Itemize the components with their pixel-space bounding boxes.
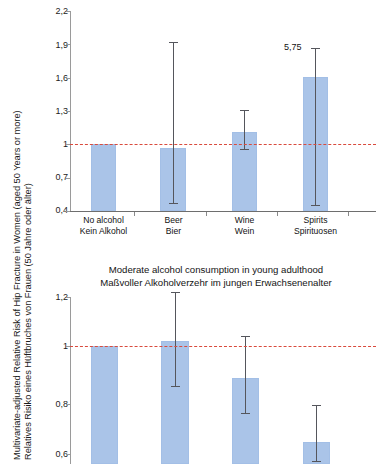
error-bar-cap-bottom-3-upper [241, 336, 250, 337]
y-axis-label-german: Relatives Risiko eines Hüftbruches von F… [23, 0, 33, 460]
y-axis-line-top [70, 11, 71, 211]
y-tick-label-0-4: 0,4 [32, 205, 68, 215]
bar-bottom-1[interactable] [91, 346, 118, 464]
error-bar-cap-wine-lower [240, 149, 249, 150]
annotation-spirits-upper-ci: 5,75 [284, 42, 302, 52]
y-axis-caption-block: Multivariate-adjusted Relative Risk of H… [0, 0, 30, 464]
error-bar-cap-spirits-upper [311, 48, 320, 49]
error-bar-bottom-3 [245, 336, 246, 413]
y-tick-label-bottom-1: 1 [32, 341, 68, 351]
x-category-spirits: Spirits Spirituosen [273, 215, 358, 236]
y-tick-2-2 [66, 11, 70, 12]
error-bar-bottom-2 [175, 292, 176, 386]
error-bar-cap-beer-upper [169, 42, 178, 43]
chart-hip-fracture-by-beverage: 2,2 1,9 1,6 1,3 1 0,7 0,4 [34, 0, 376, 240]
reference-line-rr-1-bottom [70, 346, 376, 347]
plot-area-top: 2,2 1,9 1,6 1,3 1 0,7 0,4 [34, 0, 376, 240]
error-bar-cap-bottom-4-upper [312, 405, 321, 406]
y-tick-1-6 [66, 78, 70, 79]
y-tick-1-9 [66, 44, 70, 45]
error-bar-bottom-4 [316, 405, 317, 461]
plot-area-bottom: 1,2 1 0,8 0,6 [34, 258, 376, 464]
chart-moderate-consumption-young-adulthood: Moderate alcohol consumption in young ad… [34, 258, 376, 464]
y-tick-label-0-7: 0,7 [32, 172, 68, 182]
y-tick-label-bottom-1-2: 1,2 [32, 292, 68, 302]
error-bar-cap-bottom-4-lower [312, 461, 321, 462]
y-axis-line-bottom [70, 297, 71, 464]
bar-no-alcohol[interactable] [91, 144, 116, 211]
y-tick-label-1-6: 1,6 [32, 73, 68, 83]
y-tick-label-1-3: 1,3 [32, 106, 68, 116]
error-bar-cap-beer-lower [169, 203, 178, 204]
x-axis-line-top [70, 211, 376, 212]
x-category-spirits-de: Spirituosen [273, 226, 358, 237]
y-tick-bottom-1-2 [66, 297, 70, 298]
y-tick-0-7 [66, 178, 70, 179]
error-bar-beer [173, 42, 174, 203]
error-bar-cap-bottom-2-upper [171, 292, 180, 293]
error-bar-cap-spirits-lower [311, 205, 320, 206]
y-tick-label-2-2: 2,2 [32, 6, 68, 16]
error-bar-cap-bottom-3-lower [241, 413, 250, 414]
y-tick-label-bottom-0-8: 0,8 [32, 399, 68, 409]
y-tick-bottom-0-8 [66, 404, 70, 405]
y-tick-label-1: 1 [32, 139, 68, 149]
x-category-spirits-en: Spirits [273, 215, 358, 226]
error-bar-cap-bottom-2-lower [171, 386, 180, 387]
error-bar-cap-wine-upper [240, 110, 249, 111]
y-tick-1-3 [66, 111, 70, 112]
y-tick-label-1-9: 1,9 [32, 40, 68, 50]
y-tick-bottom-0-6 [66, 454, 70, 455]
reference-line-rr-1-top [70, 144, 376, 145]
error-bar-spirits [315, 48, 316, 205]
y-axis-label-english: Multivariate-adjusted Relative Risk of H… [12, 0, 22, 460]
y-tick-label-bottom-0-6: 0,6 [32, 449, 68, 459]
